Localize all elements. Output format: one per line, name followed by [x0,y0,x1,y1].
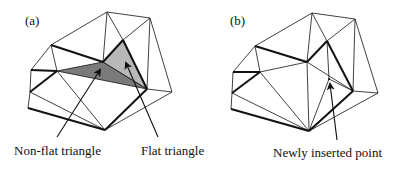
flat-arrow [126,63,158,137]
panel-a-tag: (a) [25,14,39,27]
non-flat-triangle-label: Non-flat triangle [14,144,101,157]
figure: (a) (b) Non-flat triangle Flat triangle … [0,0,397,170]
new-point-marker [328,78,330,80]
newly-inserted-point-label: Newly inserted point [273,146,382,159]
flat-triangle-label: Flat triangle [141,144,204,157]
panel-a-mesh [28,12,172,137]
panel-b-tag: (b) [230,14,245,27]
panel-b-mesh [231,13,378,140]
